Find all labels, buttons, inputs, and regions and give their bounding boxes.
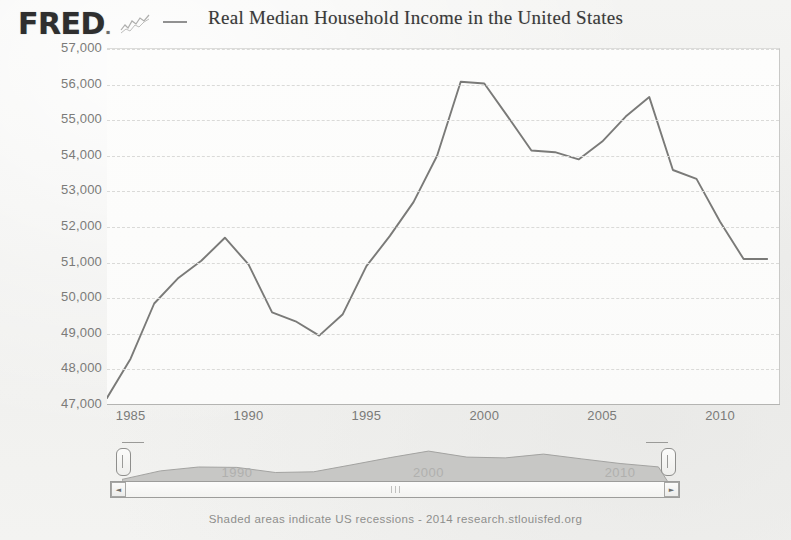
y-axis-tick-label: 54,000 bbox=[40, 147, 102, 162]
y-axis-tick-label: 48,000 bbox=[40, 360, 102, 375]
plot-area bbox=[107, 48, 780, 405]
horizontal-scrollbar[interactable]: ◄ ► bbox=[110, 481, 680, 498]
gridline bbox=[107, 191, 779, 192]
y-axis-tick-label: 50,000 bbox=[40, 289, 102, 304]
line-chart-icon bbox=[120, 14, 150, 34]
range-handle-left-stem bbox=[122, 442, 144, 443]
gridline bbox=[107, 263, 779, 264]
x-axis-tick-label: 2010 bbox=[705, 408, 735, 423]
y-axis-tick-label: 57,000 bbox=[40, 40, 102, 55]
gridline bbox=[107, 85, 779, 86]
chart-header: FRED. Real Median Household Income in th… bbox=[0, 0, 791, 46]
gridline bbox=[107, 369, 779, 370]
range-handle-left[interactable] bbox=[116, 448, 131, 476]
x-axis-line bbox=[107, 404, 780, 405]
gridline bbox=[107, 227, 779, 228]
y-axis-tick-label: 52,000 bbox=[40, 218, 102, 233]
range-handle-right-stem bbox=[646, 442, 668, 443]
gridline bbox=[107, 120, 779, 121]
scroll-left-arrow-icon[interactable]: ◄ bbox=[111, 482, 126, 497]
x-axis-tick-label: 1985 bbox=[116, 408, 146, 423]
x-axis-labels: 198519901995200020052010 bbox=[107, 408, 779, 428]
navigator-year-label: 2000 bbox=[413, 465, 444, 480]
x-axis-tick-label: 2000 bbox=[469, 408, 499, 423]
y-axis-tick-label: 51,000 bbox=[40, 254, 102, 269]
x-axis-tick-label: 1990 bbox=[234, 408, 264, 423]
x-axis-tick-label: 1995 bbox=[351, 408, 381, 423]
fred-logo-text: FRED bbox=[18, 6, 105, 41]
scrollbar-thumb[interactable] bbox=[126, 482, 664, 497]
y-axis-tick-label: 56,000 bbox=[40, 76, 102, 91]
scrollbar-grip-icon bbox=[391, 486, 400, 493]
y-axis-tick-label: 47,000 bbox=[40, 396, 102, 411]
y-axis-tick-label: 55,000 bbox=[40, 111, 102, 126]
scroll-right-arrow-icon[interactable]: ► bbox=[664, 482, 679, 497]
gridline bbox=[107, 156, 779, 157]
gridline bbox=[107, 334, 779, 335]
legend-line-icon bbox=[163, 21, 187, 23]
x-axis-tick-label: 2005 bbox=[587, 408, 617, 423]
navigator-year-label: 1990 bbox=[221, 465, 252, 480]
footer-note: Shaded areas indicate US recessions - 20… bbox=[0, 513, 791, 525]
y-axis-tick-label: 53,000 bbox=[40, 182, 102, 197]
range-navigator[interactable]: 199020002010 bbox=[122, 440, 668, 482]
fred-logo-dot: . bbox=[105, 19, 111, 38]
y-axis-tick-label: 49,000 bbox=[40, 325, 102, 340]
navigator-area-chart bbox=[122, 440, 668, 482]
gridline bbox=[107, 298, 779, 299]
gridline bbox=[107, 49, 779, 50]
y-axis-labels: 57,00056,00055,00054,00053,00052,00051,0… bbox=[36, 48, 102, 404]
page-title: Real Median Household Income in the Unit… bbox=[208, 7, 623, 29]
navigator-year-label: 2010 bbox=[605, 465, 636, 480]
range-handle-right[interactable] bbox=[661, 448, 676, 476]
fred-logo: FRED. bbox=[18, 6, 111, 41]
